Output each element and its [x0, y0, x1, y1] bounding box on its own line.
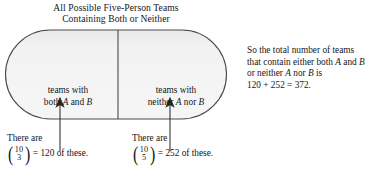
explanation-line-1: So the total number of teams — [247, 45, 388, 57]
explanation-line-2-mid: and — [341, 57, 359, 67]
combinatorics-figure: All Possible Five-Person Teams Containin… — [0, 0, 388, 176]
explanation-text: So the total number of teams that contai… — [247, 45, 388, 92]
cell-both-var-b: B — [86, 97, 92, 107]
cell-label-both: teams with both A and B — [16, 85, 120, 108]
cell-label-neither-line-2: neither A nor B — [124, 97, 228, 109]
explanation-line-3-post: is — [314, 68, 323, 78]
right-callout-body: ( 10 5 ) = 252 of these. — [132, 146, 213, 163]
cell-label-both-line-2: both A and B — [16, 97, 120, 109]
explanation-line-3-pre: or neither — [247, 68, 285, 78]
left-callout: There are ( 10 3 ) = 120 of these. — [7, 133, 88, 162]
right-callout-head: There are — [132, 133, 213, 145]
right-binomial-coefficient: ( 10 5 ) — [132, 146, 156, 163]
right-paren-close: ) — [150, 146, 155, 162]
left-binomial-stack: 10 3 — [14, 146, 23, 163]
right-paren-open: ( — [133, 146, 138, 162]
cell-neither-pre: neither — [148, 97, 176, 107]
cell-neither-var-b: B — [199, 97, 205, 107]
right-binomial-stack: 10 5 — [139, 146, 148, 163]
left-paren-close: ) — [25, 146, 30, 162]
right-callout: There are ( 10 5 ) = 252 of these. — [132, 133, 213, 162]
right-callout-tail: = 252 of these. — [158, 148, 213, 160]
explanation-line-2-pre: that contain either both — [247, 57, 335, 67]
figure-title: All Possible Five-Person Teams Containin… — [0, 2, 232, 25]
cell-both-pre: both — [44, 97, 63, 107]
left-callout-body: ( 10 3 ) = 120 of these. — [7, 146, 88, 163]
cell-neither-mid: nor — [182, 97, 199, 107]
explanation-line-2: that contain either both A and B — [247, 57, 388, 69]
cell-label-both-line-1: teams with — [16, 85, 120, 97]
left-paren-open: ( — [8, 146, 13, 162]
explanation-line-4: 120 + 252 = 372. — [247, 80, 388, 92]
figure-title-line-1: All Possible Five-Person Teams — [0, 2, 232, 13]
cell-label-neither: teams with neither A nor B — [124, 85, 228, 108]
left-callout-tail: = 120 of these. — [33, 148, 88, 160]
figure-title-line-2: Containing Both or Neither — [0, 13, 232, 24]
right-binomial-k: 5 — [142, 154, 146, 162]
left-callout-head: There are — [7, 133, 88, 145]
explanation-line-3-mid: nor — [291, 68, 308, 78]
explanation-line-3: or neither A nor B is — [247, 68, 388, 80]
cell-both-mid: and — [68, 97, 86, 107]
explanation-line-2-var-b: B — [359, 57, 365, 67]
left-binomial-k: 3 — [17, 154, 21, 162]
cell-label-neither-line-1: teams with — [124, 85, 228, 97]
capsule-diagram: teams with both A and B teams with neith… — [4, 29, 228, 120]
left-binomial-coefficient: ( 10 3 ) — [7, 146, 31, 163]
